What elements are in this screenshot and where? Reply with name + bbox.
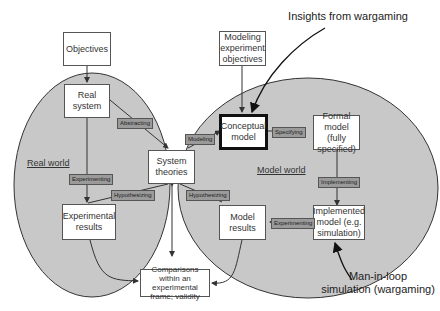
man-in-loop-annotation: Man-in-loop simulation (wargaming) xyxy=(318,270,438,296)
hypothesizing-right-label: Hypothesizing xyxy=(186,190,230,201)
model-world-region xyxy=(178,78,438,298)
experimenting-model-label: Experimenting xyxy=(271,218,315,229)
objectives-box: Objectives xyxy=(63,32,111,66)
system-theories-box: System theories xyxy=(148,150,195,184)
conceptual-model-box: Conceptual model xyxy=(219,114,268,150)
abstracting-label: Abstracting xyxy=(117,118,153,129)
modeling-objectives-box: Modeling experiment objectives xyxy=(219,31,266,66)
hypothesizing-left-label: Hypothesizing xyxy=(111,190,155,201)
implemented-model-box: Implemented model (e.g. simulation) xyxy=(313,205,365,240)
experimenting-real-label: Experimenting xyxy=(69,174,113,185)
real-system-box: Real system xyxy=(64,84,110,118)
implementing-label: Implementing xyxy=(318,177,360,188)
model-world-label: Model world xyxy=(257,165,306,175)
real-world-label: Real world xyxy=(27,158,70,168)
formal-model-box: Formal model (fully specified) xyxy=(313,115,360,150)
experimental-results-box: Experimental results xyxy=(62,204,116,240)
specifying-label: Specifying xyxy=(272,127,306,138)
insights-annotation: Insights from wargaming xyxy=(278,10,418,23)
model-results-box: Model results xyxy=(219,205,266,240)
modeling-label: Modeling xyxy=(185,134,215,145)
comparisons-box: Comparisons within an experimental frame… xyxy=(140,269,210,297)
